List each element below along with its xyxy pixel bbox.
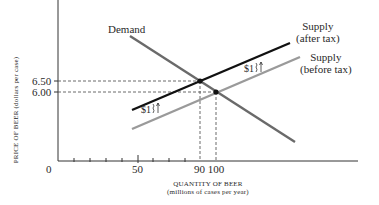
- x-tick-label-0: 0: [46, 163, 52, 175]
- tax-shift-arrow-upper: [256, 62, 263, 72]
- supply-before-tax-label-line2: (before tax): [300, 63, 352, 75]
- equilibrium-before-tax-point: [213, 89, 218, 94]
- y-axis-title: PRICE OF BEER (dollars per case): [10, 45, 22, 175]
- supply-before-tax-label-line1: Supply: [300, 51, 352, 63]
- supply-after-tax-label: Supply (after tax): [296, 20, 340, 44]
- tax-shift-arrow-lower: [153, 103, 160, 113]
- y-tick-label-600: 6.00: [32, 86, 51, 98]
- supply-after-tax-label-line1: Supply: [296, 20, 340, 32]
- x-tick-label-90-100: 90 100: [194, 163, 224, 175]
- dashed-guides: [58, 81, 216, 161]
- demand-label: Demand: [108, 23, 145, 35]
- x-axis-subtitle: (millions of cases per year): [156, 188, 260, 197]
- equilibrium-after-tax-point: [197, 78, 202, 83]
- supply-before-tax-label: Supply (before tax): [300, 51, 352, 75]
- tax-label-lower: $1: [141, 104, 151, 116]
- x-ticks: [74, 155, 185, 163]
- x-tick-label-50: 50: [132, 163, 143, 175]
- supply-after-tax-label-line2: (after tax): [296, 32, 340, 44]
- tax-label-upper: $1: [244, 63, 254, 75]
